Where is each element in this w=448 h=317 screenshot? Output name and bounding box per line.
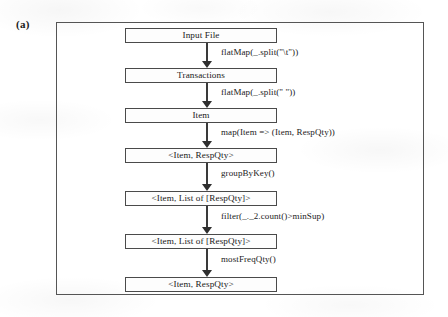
- edge-label-groupbykey: groupByKey(): [221, 169, 275, 178]
- edge-filtered-to-final: [200, 249, 214, 277]
- arrowhead-icon: [202, 227, 212, 234]
- edge-input-file-to-transactions: [200, 43, 214, 68]
- node-transactions: Transactions: [125, 68, 277, 83]
- edge-label-flatmap-space: flatMap(_.split(" ")): [221, 88, 295, 97]
- node-item: Item: [125, 108, 277, 123]
- edge-label-map: map(Item => (Item, RespQty)): [221, 128, 335, 137]
- node-input-file: Input File: [125, 28, 277, 43]
- edge-label-filter: filter(_._2.count()>minSup): [221, 212, 324, 221]
- edge-label-flatmap-tab: flatMap(_.split("\t")): [221, 48, 298, 57]
- edge-line: [206, 123, 208, 141]
- node-item-respqty-final: <Item, RespQty>: [125, 277, 277, 292]
- node-item-list-respqty-filtered: <Item, List of [RespQty]>: [125, 234, 277, 249]
- edge-line: [206, 249, 208, 270]
- arrowhead-icon: [202, 270, 212, 277]
- edge-line: [206, 163, 208, 184]
- arrowhead-icon: [202, 61, 212, 68]
- edge-line: [206, 43, 208, 61]
- node-item-list-respqty-grouped: <Item, List of [RespQty]>: [125, 191, 277, 206]
- node-item-respqty: <Item, RespQty>: [125, 148, 277, 163]
- panel-label: (a): [16, 18, 30, 30]
- edge-line: [206, 83, 208, 101]
- edge-line: [206, 206, 208, 227]
- edge-item-respqty-to-grouped: [200, 163, 214, 191]
- arrowhead-icon: [202, 184, 212, 191]
- edge-item-to-item-respqty: [200, 123, 214, 148]
- edge-label-mostfreqqty: mostFreqQty(): [221, 255, 276, 264]
- arrowhead-icon: [202, 141, 212, 148]
- edge-transactions-to-item: [200, 83, 214, 108]
- arrowhead-icon: [202, 101, 212, 108]
- edge-grouped-to-filtered: [200, 206, 214, 234]
